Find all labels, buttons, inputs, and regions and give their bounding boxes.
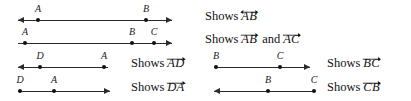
arrow-head-left-icon — [18, 17, 24, 23]
point-dot-a — [52, 89, 56, 93]
number-line-axis — [18, 43, 172, 44]
point-label-a: A — [51, 75, 57, 85]
diagram-ray-bc: B C — [214, 55, 310, 77]
point-label-c: C — [277, 51, 284, 61]
point-label-d: D — [16, 75, 23, 85]
point-dot-a — [102, 65, 106, 69]
number-line-axis — [214, 67, 310, 68]
point-label-c: C — [311, 75, 318, 85]
point-dot-b — [266, 89, 270, 93]
caption-prefix: Shows — [327, 80, 360, 94]
point-label-b: B — [213, 51, 219, 61]
point-dot-b — [214, 65, 218, 69]
vector-term-ab: AB — [240, 10, 258, 23]
vector-letters: AB — [241, 10, 257, 23]
arrow-head-right-icon — [166, 17, 172, 23]
vector-term-ac: AC — [282, 33, 300, 46]
point-label-c: C — [151, 27, 158, 37]
arrow-head-left-icon — [214, 88, 220, 94]
point-dot-c — [278, 65, 282, 69]
diagram-ray-cb: B C — [214, 79, 314, 101]
arrow-head-right-icon — [104, 88, 110, 94]
caption-row-3-left: ShowsAD — [131, 57, 186, 70]
point-dot-d — [18, 89, 22, 93]
vector-term-ad: AD — [166, 57, 185, 70]
number-line-axis — [214, 91, 314, 92]
vector-letters: CB — [363, 81, 379, 94]
point-dot-b — [130, 41, 134, 45]
caption-prefix: Shows — [131, 80, 164, 94]
caption-prefix: Shows — [205, 32, 238, 46]
caption-conjunction: and — [262, 32, 280, 46]
point-label-a: A — [22, 27, 28, 37]
vector-term-cb: CB — [362, 81, 380, 94]
point-label-a: A — [35, 4, 41, 14]
point-dot-a — [36, 18, 40, 22]
number-line-axis — [18, 67, 108, 68]
number-line-axis — [18, 20, 172, 21]
caption-row-3-right: ShowsBC — [327, 57, 382, 70]
caption-row-2: ShowsAB andAC — [205, 33, 302, 46]
point-label-b: B — [265, 75, 271, 85]
vector-term-ab: AB — [240, 33, 258, 46]
point-dot-c — [312, 89, 316, 93]
diagram-ray-da: D A — [18, 79, 110, 101]
vector-letters: AB — [241, 33, 257, 46]
caption-prefix: Shows — [131, 56, 164, 70]
caption-row-4-right: ShowsCB — [327, 81, 382, 94]
arrow-head-right-icon — [304, 64, 310, 70]
point-label-a: A — [101, 51, 107, 61]
caption-row-1: ShowsAB — [205, 10, 259, 23]
number-line-axis — [18, 91, 110, 92]
caption-row-4-left: ShowsDA — [131, 81, 186, 94]
point-label-b: B — [143, 4, 149, 14]
vector-term-bc: BC — [362, 57, 380, 70]
point-label-d: D — [36, 51, 43, 61]
caption-prefix: Shows — [205, 9, 238, 23]
diagram-line-ab: A B — [18, 8, 172, 30]
caption-prefix: Shows — [327, 56, 360, 70]
point-dot-a — [23, 41, 27, 45]
arrow-head-left-icon — [18, 64, 24, 70]
vector-letters: DA — [167, 81, 184, 94]
point-dot-d — [38, 65, 42, 69]
arrow-head-right-icon — [166, 40, 172, 46]
vector-letters: AD — [167, 57, 184, 70]
diagram-ray-ad: D A — [18, 55, 108, 77]
point-dot-b — [144, 18, 148, 22]
vector-term-da: DA — [166, 81, 185, 94]
point-label-b: B — [129, 27, 135, 37]
vector-letters: BC — [363, 57, 379, 70]
vector-letters: AC — [283, 33, 299, 46]
point-dot-c — [152, 41, 156, 45]
